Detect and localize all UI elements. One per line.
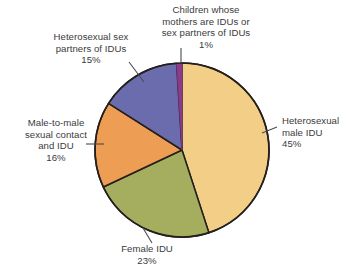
- pie-chart-figure: Children whose mothers are IDUs or sex p…: [0, 0, 355, 276]
- label-heterosexual-male-idu: Heterosexual male IDU 45%: [282, 115, 354, 150]
- label-children-of-idu-mothers: Children whose mothers are IDUs or sex p…: [140, 4, 272, 50]
- label-female-idu: Female IDU 23%: [92, 243, 202, 266]
- pie-slices-group: [95, 63, 269, 237]
- label-heterosexual-sex-partners-of-idus: Heterosexual sex partners of IDUs 15%: [30, 31, 152, 66]
- label-male-to-male-sexual-contact-and-idu: Male-to-male sexual contact and IDU 16%: [2, 117, 110, 163]
